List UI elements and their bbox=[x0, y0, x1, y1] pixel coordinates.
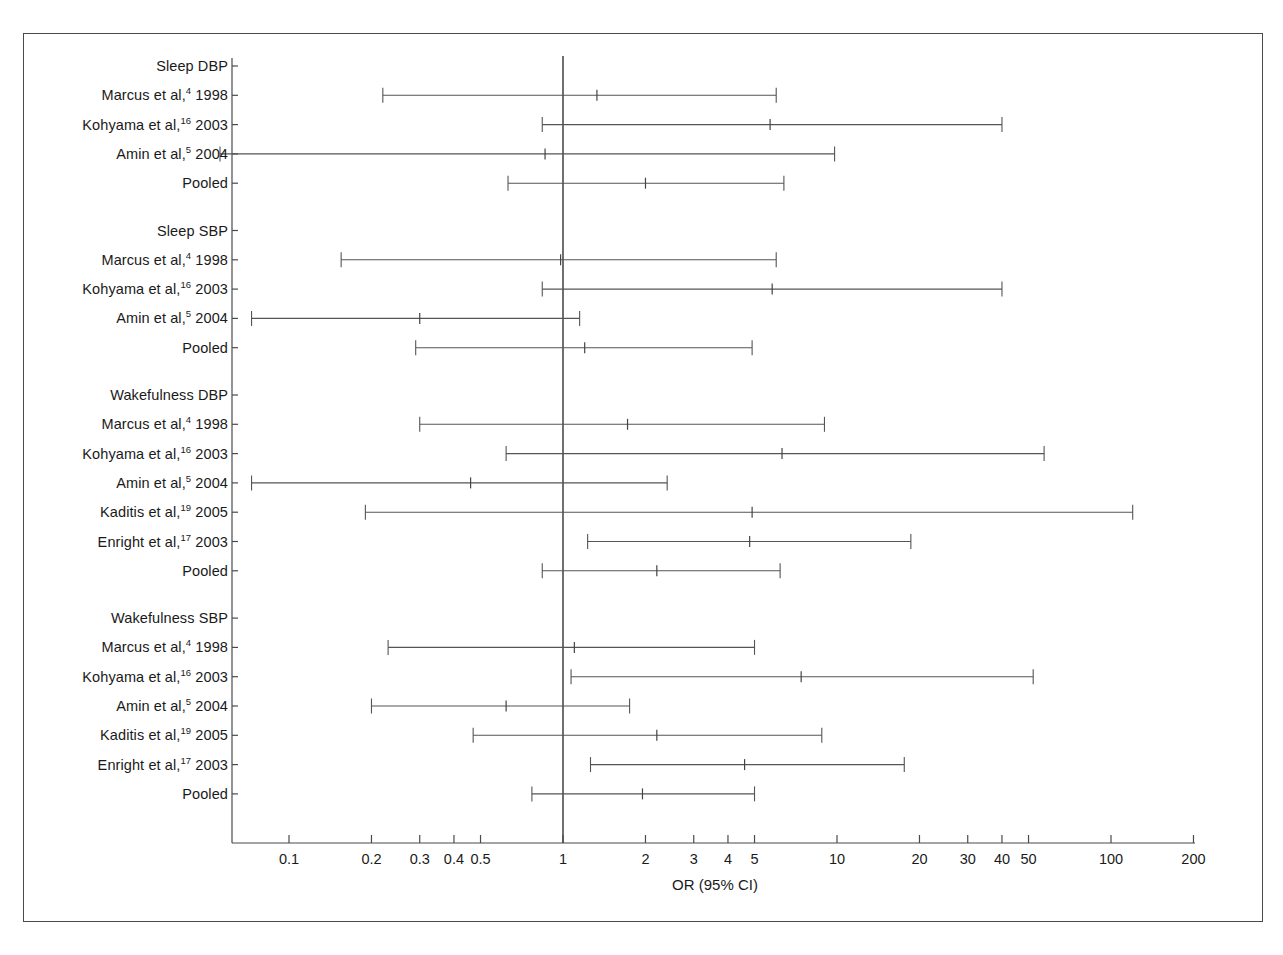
reference-superscript: 16 bbox=[180, 667, 191, 678]
reference-superscript: 4 bbox=[186, 250, 191, 261]
study-label: Kaditis et al,19 2005 bbox=[100, 727, 228, 743]
x-tick-label: 30 bbox=[960, 851, 976, 867]
study-label: Pooled bbox=[182, 340, 228, 356]
reference-superscript: 5 bbox=[186, 473, 191, 484]
study-label: Kohyama et al,16 2003 bbox=[82, 446, 228, 462]
reference-superscript: 5 bbox=[186, 696, 191, 707]
x-tick-label: 0.4 bbox=[444, 851, 464, 867]
reference-superscript: 4 bbox=[186, 638, 191, 649]
reference-superscript: 4 bbox=[186, 414, 191, 425]
study-label: Amin et al,5 2004 bbox=[116, 146, 228, 162]
x-axis-title: OR (95% CI) bbox=[672, 876, 758, 893]
reference-superscript: 16 bbox=[180, 444, 191, 455]
study-label: Pooled bbox=[182, 563, 228, 579]
reference-superscript: 16 bbox=[180, 115, 191, 126]
row-labels-layer: 0.10.20.30.40.5123451020304050100200OR (… bbox=[0, 0, 1283, 955]
group-label: Sleep SBP bbox=[157, 223, 228, 239]
group-label: Sleep DBP bbox=[156, 58, 228, 74]
reference-superscript: 17 bbox=[180, 755, 191, 766]
x-tick-label: 10 bbox=[829, 851, 845, 867]
study-label: Kaditis et al,19 2005 bbox=[100, 504, 228, 520]
study-label: Amin et al,5 2004 bbox=[116, 310, 228, 326]
reference-superscript: 16 bbox=[180, 279, 191, 290]
x-tick-label: 0.1 bbox=[279, 851, 299, 867]
group-label: Wakefulness SBP bbox=[111, 610, 228, 626]
study-label: Kohyama et al,16 2003 bbox=[82, 117, 228, 133]
study-label: Enright et al,17 2003 bbox=[98, 534, 228, 550]
study-label: Amin et al,5 2004 bbox=[116, 698, 228, 714]
x-tick-label: 200 bbox=[1181, 851, 1205, 867]
x-tick-label: 20 bbox=[911, 851, 927, 867]
study-label: Marcus et al,4 1998 bbox=[102, 87, 229, 103]
reference-superscript: 5 bbox=[186, 144, 191, 155]
x-tick-label: 3 bbox=[690, 851, 698, 867]
x-tick-label: 40 bbox=[994, 851, 1010, 867]
forest-plot-figure: 0.10.20.30.40.5123451020304050100200OR (… bbox=[0, 0, 1283, 955]
study-label: Marcus et al,4 1998 bbox=[102, 639, 229, 655]
x-tick-label: 0.2 bbox=[361, 851, 381, 867]
study-label: Kohyama et al,16 2003 bbox=[82, 281, 228, 297]
x-tick-label: 0.3 bbox=[410, 851, 430, 867]
x-tick-label: 50 bbox=[1020, 851, 1036, 867]
x-tick-label: 5 bbox=[750, 851, 758, 867]
x-tick-label: 4 bbox=[724, 851, 732, 867]
study-label: Amin et al,5 2004 bbox=[116, 475, 228, 491]
group-label: Wakefulness DBP bbox=[110, 387, 228, 403]
x-tick-label: 2 bbox=[641, 851, 649, 867]
study-label: Pooled bbox=[182, 786, 228, 802]
x-tick-label: 100 bbox=[1099, 851, 1123, 867]
study-label: Pooled bbox=[182, 175, 228, 191]
x-tick-label: 1 bbox=[559, 851, 567, 867]
study-label: Kohyama et al,16 2003 bbox=[82, 669, 228, 685]
reference-superscript: 17 bbox=[180, 532, 191, 543]
reference-superscript: 5 bbox=[186, 309, 191, 320]
study-label: Marcus et al,4 1998 bbox=[102, 416, 229, 432]
reference-superscript: 19 bbox=[180, 502, 191, 513]
study-label: Marcus et al,4 1998 bbox=[102, 252, 229, 268]
reference-superscript: 4 bbox=[186, 85, 191, 96]
study-label: Enright et al,17 2003 bbox=[98, 757, 228, 773]
reference-superscript: 19 bbox=[180, 725, 191, 736]
x-tick-label: 0.5 bbox=[470, 851, 490, 867]
